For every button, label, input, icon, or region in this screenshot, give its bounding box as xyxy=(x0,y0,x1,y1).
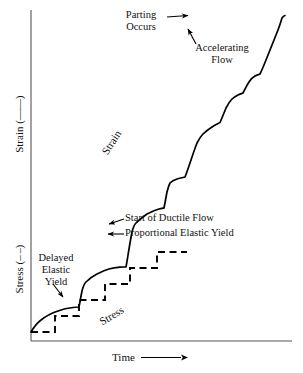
annotation-delayed-elastic-yield-line-3: Yield xyxy=(27,276,85,288)
x-axis-title: Time xyxy=(112,351,189,363)
y-axis-title-stress-close: ) xyxy=(13,245,25,249)
annotation-delayed-elastic-yield: Delayed Elastic Yield xyxy=(27,252,85,287)
y-axis-title-stress: Stress (– –) xyxy=(13,217,25,321)
y-axis-title-strain: Strain (——) xyxy=(13,69,25,179)
x-axis-title-text: Time xyxy=(112,351,135,363)
y-axis-title-stress-text: Stress ( xyxy=(13,261,25,294)
annotation-parting-occurs-line-1: Parting xyxy=(113,9,169,21)
annotation-accelerating-flow-line-1: Accelerating xyxy=(186,42,258,54)
annotation-delayed-elastic-yield-line-1: Delayed xyxy=(27,252,85,264)
creep-curve-figure: Strain (——) Stress (– –) Time Parting Oc… xyxy=(0,0,303,373)
annotation-parting-occurs: Parting Occurs xyxy=(113,9,169,33)
annotation-start-of-ductile-flow: Start of Ductile Flow xyxy=(125,212,214,224)
annotation-parting-occurs-line-2: Occurs xyxy=(113,21,169,33)
annotation-accelerating-flow-line-2: Flow xyxy=(186,54,258,66)
stress-line-glyph: – – xyxy=(13,249,25,261)
annotation-delayed-elastic-yield-line-2: Elastic xyxy=(27,264,85,276)
parting-occurs-leader xyxy=(167,16,188,18)
strain-line-glyph: —— xyxy=(13,99,25,120)
annotation-start-of-ductile-flow-text: Start of Ductile Flow xyxy=(125,212,214,223)
y-axis-title-strain-close: ) xyxy=(13,95,25,99)
annotation-proportional-elastic-yield: Proportional Elastic Yield xyxy=(125,227,234,239)
y-axis-title-strain-text: Strain ( xyxy=(13,120,25,153)
x-axis-arrow-icon xyxy=(141,353,189,362)
annotation-accelerating-flow: Accelerating Flow xyxy=(186,42,258,66)
annotation-proportional-elastic-yield-text: Proportional Elastic Yield xyxy=(125,227,234,238)
start-of-ductile-flow-leader xyxy=(109,219,124,224)
